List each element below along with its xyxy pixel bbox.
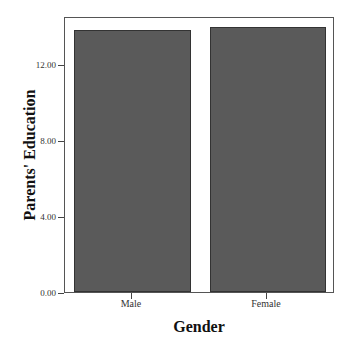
- x-tick-label-male: Male: [121, 298, 142, 309]
- y-axis-title: Parents' Education: [21, 90, 39, 221]
- bar-male: [74, 30, 191, 292]
- plot-area: [64, 17, 334, 293]
- y-tick-label: 0.00: [40, 288, 56, 298]
- y-tick-8: [58, 141, 64, 142]
- y-tick-label: 8.00: [40, 136, 56, 146]
- x-axis-title: Gender: [173, 318, 225, 336]
- x-tick-label-female: Female: [251, 298, 280, 309]
- y-tick-12: [58, 65, 64, 66]
- y-tick-4: [58, 217, 64, 218]
- y-tick-label: 4.00: [40, 212, 56, 222]
- bar-female: [210, 27, 326, 292]
- y-tick-0: [58, 293, 64, 294]
- y-tick-label: 12.00: [36, 60, 56, 70]
